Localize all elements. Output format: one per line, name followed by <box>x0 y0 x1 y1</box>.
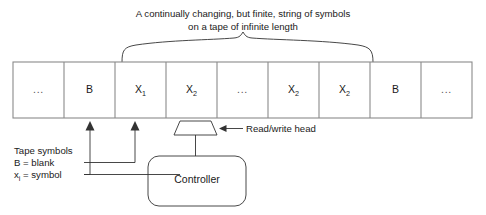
callout-risers <box>84 130 90 175</box>
read-write-head-trapezoid <box>174 121 217 135</box>
tape-cell-6: X2 <box>319 84 370 95</box>
symbol-definition-rest: = symbol <box>20 169 61 180</box>
tape-cell-6-base: X <box>339 83 346 95</box>
controller-label: Controller <box>148 174 246 185</box>
tape-cell-3-base: X <box>186 83 193 95</box>
figure-caption-line-2: on a tape of infinite length <box>0 22 486 32</box>
read-write-head-label: Read/write head <box>246 124 316 134</box>
tape-cell-2-subscript: 1 <box>142 89 146 98</box>
read-write-head <box>174 121 217 156</box>
tape-symbols-heading: Tape symbols <box>14 146 73 156</box>
tape-cell-7: B <box>370 84 421 95</box>
tape-cell-6-subscript: 2 <box>346 89 350 98</box>
symbol-definition-label: xi = symbol <box>14 170 62 180</box>
tape-cell-4: ... <box>217 84 268 95</box>
tape-cell-5-subscript: 2 <box>295 89 299 98</box>
figure-caption-line-1: A continually changing, but finite, stri… <box>0 9 486 19</box>
tape-cell-2-base: X <box>135 83 142 95</box>
tape-cell-5-base: X <box>288 83 295 95</box>
read-write-head-pointer <box>219 125 243 132</box>
tape-cell-1: B <box>64 84 115 95</box>
string-span-brace <box>122 32 373 62</box>
tape-cell-2: X1 <box>115 84 166 95</box>
tape-cell-8: ... <box>421 84 472 95</box>
tape-cell-3: X2 <box>166 84 217 95</box>
tape-cell-5: X2 <box>268 84 319 95</box>
tape-cell-3-subscript: 2 <box>193 89 197 98</box>
tape-cell-0: ... <box>13 84 64 95</box>
blank-definition-label: B = blank <box>14 158 54 168</box>
turing-machine-diagram: A continually changing, but finite, stri… <box>0 0 486 215</box>
